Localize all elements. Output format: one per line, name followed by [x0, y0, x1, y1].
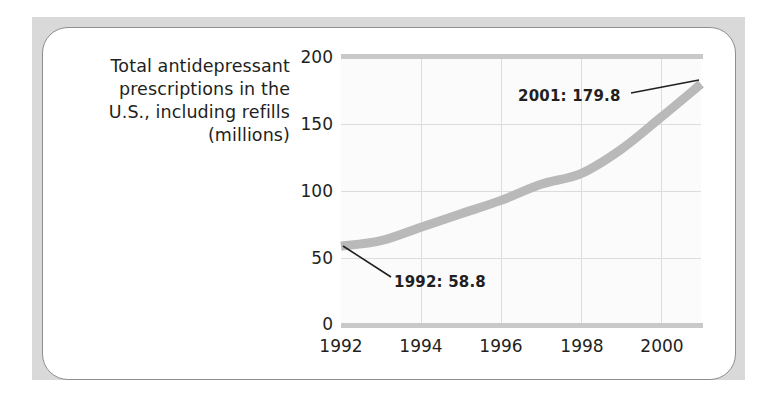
ytick-label-200: 200 [293, 49, 333, 66]
xtick-label-1998: 1998 [547, 338, 617, 355]
xtick-label-1994: 1994 [386, 338, 456, 355]
gridline-y-50 [341, 258, 701, 259]
line-chart: 200 150 100 50 0 1992 1994 1996 1998 200… [0, 0, 777, 407]
chart-figure: Total antidepressant prescriptions in th… [0, 0, 777, 407]
ytick-label-50: 50 [293, 250, 333, 267]
xtick-label-2000: 2000 [627, 338, 697, 355]
ytick-label-100: 100 [293, 183, 333, 200]
ytick-label-150: 150 [293, 116, 333, 133]
gridline-y-100 [341, 191, 701, 192]
top-rule [341, 54, 703, 59]
ytick-label-0: 0 [293, 316, 333, 333]
annotation-1992: 1992: 58.8 [394, 273, 486, 291]
gridline-x-2000 [661, 57, 662, 325]
xtick-label-1996: 1996 [466, 338, 536, 355]
gridline-x-1996 [501, 57, 502, 325]
annotation-2001: 2001: 179.8 [518, 87, 621, 105]
gridline-y-150 [341, 124, 701, 125]
xtick-label-1992: 1992 [306, 338, 376, 355]
x-axis-rule [341, 323, 703, 328]
